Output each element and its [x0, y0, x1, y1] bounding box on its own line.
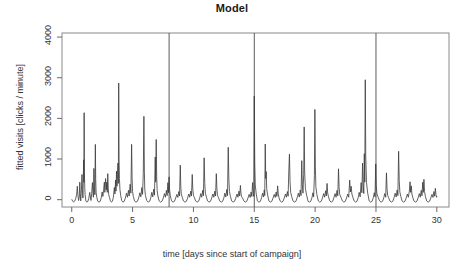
x-axis-tick-label: 5: [118, 215, 148, 225]
plot-canvas: [0, 0, 464, 276]
x-axis-tick-label: 25: [361, 215, 391, 225]
x-axis-tick-label: 30: [422, 215, 452, 225]
y-axis-tick-label: 1000: [43, 141, 53, 173]
x-axis-label: time [days since start of campaign]: [0, 249, 464, 259]
chart-figure: Model 051015202530 01000200030004000 tim…: [0, 0, 464, 276]
x-axis-tick-label: 0: [57, 215, 87, 225]
y-axis-tick-label: 3000: [43, 60, 53, 92]
x-axis-tick-label: 10: [178, 215, 208, 225]
x-axis-tick-label: 20: [300, 215, 330, 225]
x-axis-tick-label: 15: [239, 215, 269, 225]
y-axis-tick-label: 2000: [43, 100, 53, 132]
y-axis-tick-label: 0: [43, 182, 53, 214]
y-axis-label: fitted visits [clicks / minute]: [15, 27, 25, 207]
y-axis-tick-label: 4000: [43, 19, 53, 51]
